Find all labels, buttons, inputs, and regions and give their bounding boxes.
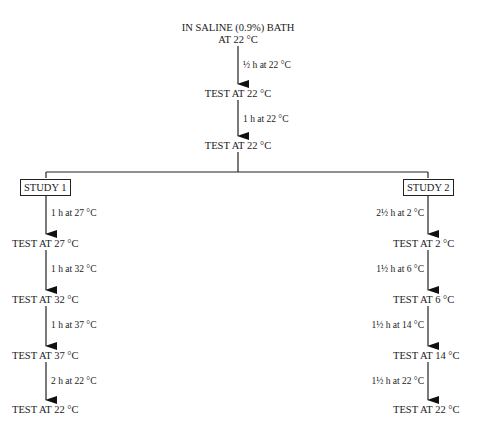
start-node-line1: IN SALINE (0.9%) BATH — [158, 22, 318, 34]
test-node: TEST AT 32 °C — [12, 294, 79, 306]
test-node: TEST AT 14 °C — [393, 350, 460, 362]
step-label: 1½ h at 6 °C — [368, 264, 424, 275]
test-node: TEST AT 2 °C — [393, 238, 454, 250]
step-label: 2½ h at 2 °C — [368, 208, 424, 219]
test-node: TEST AT 37 °C — [12, 350, 79, 362]
study2-box: STUDY 2 — [403, 179, 454, 196]
test-node: TEST AT 22 °C — [12, 404, 79, 416]
step-label: 1 h at 27 °C — [51, 208, 97, 219]
start-node-line2: AT 22 °C — [158, 34, 318, 46]
step-label: 1½ h at 22 °C — [362, 376, 424, 387]
study1-box: STUDY 1 — [20, 179, 71, 196]
test-node: TEST AT 6 °C — [393, 294, 454, 306]
step-label: ½ h at 22 °C — [243, 60, 291, 71]
step-label: 1 h at 37 °C — [51, 320, 97, 331]
step-label: 1½ h at 14 °C — [362, 320, 424, 331]
test-node: TEST AT 27 °C — [12, 238, 79, 250]
step-label: 1 h at 32 °C — [51, 264, 97, 275]
test-node: TEST AT 22 °C — [168, 140, 308, 152]
step-label: 2 h at 22 °C — [51, 376, 97, 387]
step-label: 1 h at 22 °C — [243, 114, 289, 125]
test-node: TEST AT 22 °C — [168, 88, 308, 100]
test-node: TEST AT 22 °C — [393, 404, 460, 416]
